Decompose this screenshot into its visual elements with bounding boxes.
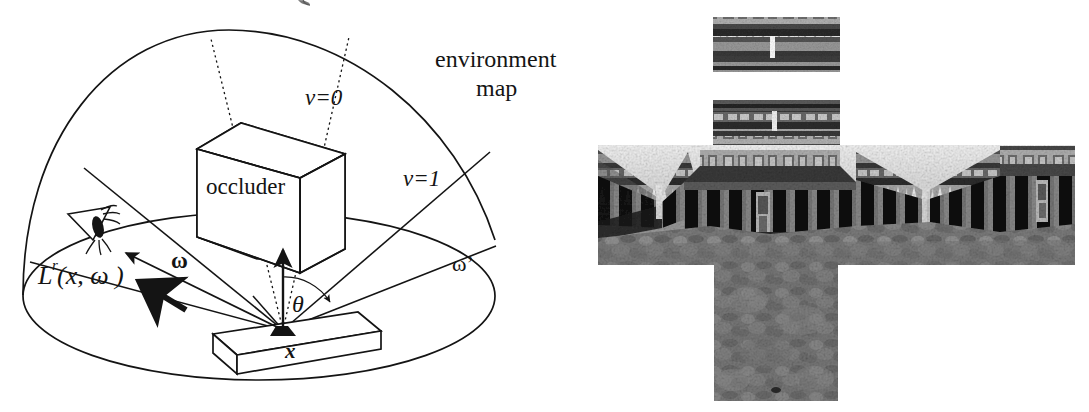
figure-root: occluder θ x [0,0,1089,412]
point-x-label: x [284,339,296,363]
radiance-L: L [37,261,52,290]
omega-prime-label: ω’ [452,251,474,276]
cubemap-face-top [713,17,840,72]
radiance-label: L r (x, ω ) [37,257,124,290]
cubemap-cross-svg [570,0,1089,412]
v-one-label: v=1 [403,166,440,191]
theta-label: θ [292,291,304,317]
cubemap-face-upper [713,100,840,148]
environment-map-label-line1: environment [435,46,557,72]
band-face-back [1000,146,1075,236]
occluder-label: occluder [206,174,286,199]
cropped-top-mark [298,0,310,5]
environment-map-label-line2: map [476,75,517,101]
omega-label: ω [171,248,188,273]
diagram-panel: occluder θ x [0,0,570,412]
v-zero-label: v=0 [305,85,343,110]
cubemap-face-bottom [714,262,838,401]
outgoing-radiance-arrow [126,253,283,330]
radiance-args: (x, ω ) [57,261,124,290]
hemisphere-diagram-svg: occluder θ x [0,0,570,412]
cubemap-face-middle-band [598,145,1075,265]
surface-slab [213,312,381,374]
incident-light-arrow [140,282,186,310]
envmap-panel [570,0,1089,412]
